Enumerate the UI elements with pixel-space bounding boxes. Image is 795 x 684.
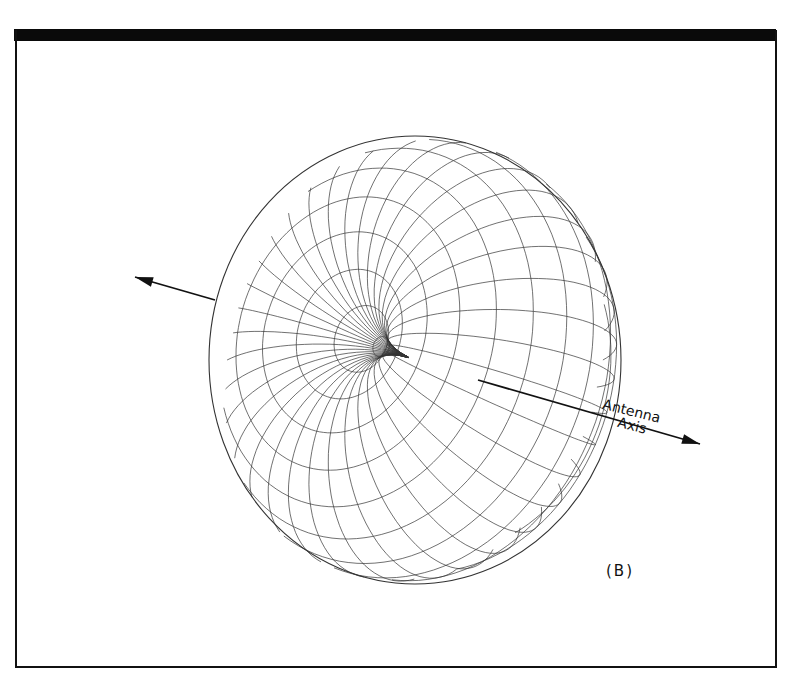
panel-label: (B): [606, 562, 634, 580]
radiation-pattern-figure: [0, 0, 795, 684]
antenna-axis-arrows: [135, 277, 700, 444]
wireframe-mesh: [209, 136, 621, 584]
